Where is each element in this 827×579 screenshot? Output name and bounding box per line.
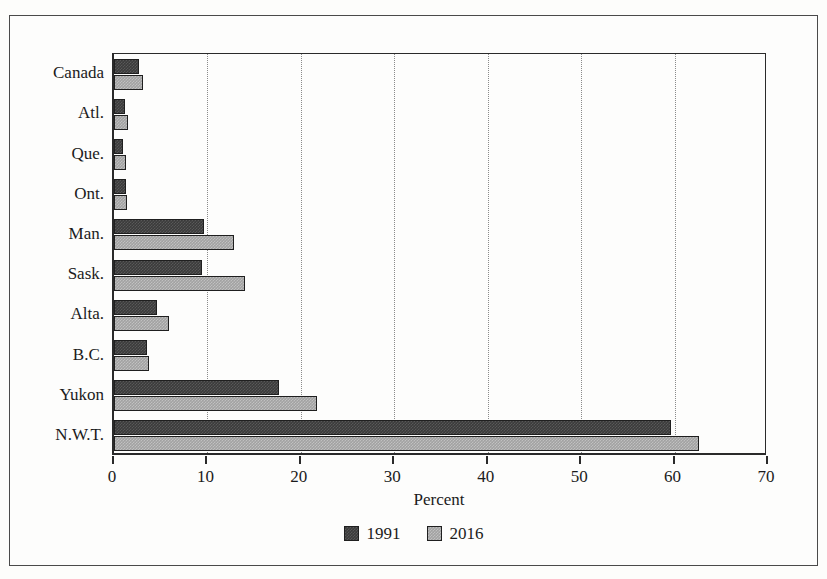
bar-alta-2016	[114, 316, 169, 331]
bar-alta-1991	[114, 300, 157, 315]
x-axis-tick	[392, 456, 394, 464]
x-axis-tick	[112, 456, 114, 464]
gridline	[394, 54, 395, 453]
legend-label: 1991	[367, 525, 401, 542]
y-axis-label-sask: Sask.	[68, 265, 104, 282]
y-axis-category-labels: CanadaAtl.Que.Ont.Man.Sask.Alta.B.C.Yuko…	[0, 53, 104, 455]
bar-man-1991	[114, 219, 204, 234]
x-axis-tick-label: 50	[571, 468, 588, 485]
bar-ont-2016	[114, 195, 127, 210]
bar-sask-1991	[114, 260, 202, 275]
bar-ont-1991	[114, 179, 126, 194]
y-axis-label-atl: Atl.	[78, 104, 104, 121]
y-axis-label-que: Que.	[71, 145, 104, 162]
bar-que-2016	[114, 155, 126, 170]
x-axis-tick	[299, 456, 301, 464]
legend-item-1991: 1991	[344, 525, 401, 542]
gridline	[301, 54, 302, 453]
bar-nwt-2016	[114, 436, 699, 451]
bar-yukon-2016	[114, 396, 317, 411]
plot-area	[112, 53, 766, 455]
bar-atl-1991	[114, 99, 125, 114]
x-axis-tick-label: 40	[477, 468, 494, 485]
x-axis-tick-label: 20	[290, 468, 307, 485]
legend-item-2016: 2016	[427, 525, 484, 542]
y-axis-label-ont: Ont.	[74, 185, 104, 202]
x-axis-tick	[766, 456, 768, 464]
y-axis-label-nwt: N.W.T.	[55, 426, 104, 443]
bar-canada-2016	[114, 75, 143, 90]
x-axis-tick	[673, 456, 675, 464]
x-axis-tick-label: 70	[758, 468, 775, 485]
gridline	[581, 54, 582, 453]
x-axis-tick	[579, 456, 581, 464]
bar-atl-2016	[114, 115, 128, 130]
bar-nwt-1991	[114, 420, 671, 435]
y-axis-label-man: Man.	[69, 225, 104, 242]
y-axis-label-bc: B.C.	[73, 346, 104, 363]
bar-sask-2016	[114, 276, 245, 291]
x-axis-tick-label: 10	[197, 468, 214, 485]
bar-canada-1991	[114, 59, 139, 74]
bar-bc-1991	[114, 340, 147, 355]
x-axis-tick	[205, 456, 207, 464]
y-axis-label-alta: Alta.	[70, 305, 104, 322]
y-axis-label-canada: Canada	[53, 64, 104, 81]
x-axis-tick	[486, 456, 488, 464]
gridline	[675, 54, 676, 453]
y-axis-label-yukon: Yukon	[60, 386, 104, 403]
legend-swatch-icon	[427, 526, 442, 541]
x-axis-tick-label: 60	[664, 468, 681, 485]
bar-bc-2016	[114, 356, 149, 371]
chart-figure: CanadaAtl.Que.Ont.Man.Sask.Alta.B.C.Yuko…	[0, 0, 827, 579]
bar-que-1991	[114, 139, 123, 154]
legend-label: 2016	[450, 525, 484, 542]
bar-man-2016	[114, 235, 234, 250]
legend-swatch-icon	[344, 526, 359, 541]
bar-yukon-1991	[114, 380, 279, 395]
x-axis-tick-label: 0	[108, 468, 117, 485]
chart-legend: 19912016	[0, 525, 827, 542]
x-axis-tick-label: 30	[384, 468, 401, 485]
gridline	[488, 54, 489, 453]
x-axis-title: Percent	[112, 490, 766, 510]
